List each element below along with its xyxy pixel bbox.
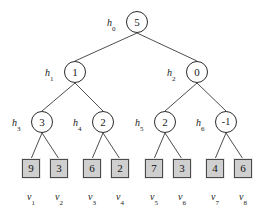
tree-edge-h2-h5: [165, 83, 197, 111]
tree-edge-h4-v4: [103, 133, 120, 159]
node-value-h1: 1: [72, 67, 78, 78]
node-label-h0: h0: [107, 18, 116, 28]
leaf-value-v8: 6: [240, 163, 246, 174]
tree-edge-h1-h4: [75, 83, 103, 111]
node-label-h4: h4: [73, 118, 82, 128]
leaf-value-v2: 3: [56, 163, 62, 174]
tree-edge-h0-h1: [75, 33, 137, 61]
node-value-h3: 3: [39, 117, 45, 128]
node-value-h5: 2: [162, 117, 168, 128]
tree-node-h6: -1: [215, 111, 237, 133]
leaf-value-v5: 7: [151, 163, 157, 174]
tree-edge-h3-v2: [42, 133, 59, 159]
leaf-label-v6: v6: [170, 192, 194, 202]
tree-node-h3: 3: [31, 111, 53, 133]
leaf-label-v8: v8: [231, 192, 255, 202]
tree-edge-h6-v8: [226, 133, 243, 159]
leaf-value-v3: 6: [89, 163, 95, 174]
tree-node-h5: 2: [154, 111, 176, 133]
leaf-label-v7: v7: [203, 192, 227, 202]
node-label-h2: h2: [167, 68, 176, 78]
tree-edges-layer: [0, 0, 259, 214]
leaf-box-v4: 2: [111, 159, 129, 178]
tree-node-h2: 0: [186, 61, 208, 83]
node-value-h6: -1: [222, 117, 230, 127]
leaf-value-v6: 3: [179, 163, 185, 174]
node-value-h4: 2: [100, 117, 106, 128]
tree-edge-h0-h2: [137, 33, 197, 61]
tree-edge-h6-v7: [215, 133, 226, 159]
tree-edge-h1-h3: [42, 83, 75, 111]
node-value-h2: 0: [194, 67, 200, 78]
tree-edge-h4-v3: [92, 133, 103, 159]
leaf-value-v1: 9: [28, 163, 34, 174]
node-label-h1: h1: [45, 68, 54, 78]
leaf-value-v7: 4: [212, 163, 218, 174]
leaf-box-v7: 4: [206, 159, 224, 178]
leaf-label-v4: v4: [108, 192, 132, 202]
leaf-box-v6: 3: [173, 159, 191, 178]
leaf-box-v1: 9: [22, 159, 40, 178]
node-label-h6: h6: [196, 118, 205, 128]
leaf-label-v5: v5: [142, 192, 166, 202]
tree-edge-h5-v6: [165, 133, 182, 159]
leaf-box-v8: 6: [234, 159, 252, 178]
tree-edge-h3-v1: [31, 133, 42, 159]
leaf-value-v4: 2: [117, 163, 123, 174]
tree-edge-h2-h6: [197, 83, 226, 111]
tree-node-h1: 1: [64, 61, 86, 83]
leaf-label-v3: v3: [80, 192, 104, 202]
leaf-box-v3: 6: [83, 159, 101, 178]
leaf-box-v5: 7: [145, 159, 163, 178]
tree-node-h0: 5: [126, 11, 148, 33]
leaf-box-v2: 3: [50, 159, 68, 178]
tree-edge-h5-v5: [154, 133, 165, 159]
leaf-label-v2: v2: [47, 192, 71, 202]
node-value-h0: 5: [134, 17, 140, 28]
leaf-label-v1: v1: [19, 192, 43, 202]
node-label-h5: h5: [135, 118, 144, 128]
tree-node-h4: 2: [92, 111, 114, 133]
node-label-h3: h3: [12, 118, 21, 128]
binary-tree-diagram: h05h11h20h33h42h52h6-1 9v13v26v32v47v53v…: [0, 0, 259, 214]
